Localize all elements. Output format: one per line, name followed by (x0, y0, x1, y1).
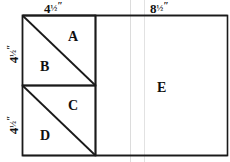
lower-square-diagonal (23, 86, 96, 156)
dimension-whole-left-lower: 4 (6, 128, 21, 135)
region-label-b: B (40, 60, 49, 74)
dimension-fraction-left-lower: ½ (8, 121, 18, 128)
dimension-fraction-left-upper: ½ (8, 50, 18, 57)
upper-square-diagonal (23, 16, 96, 86)
dimension-unit-left-lower: ″ (5, 116, 16, 122)
dimension-unit-left-upper: ″ (5, 45, 16, 51)
region-label-e: E (157, 81, 166, 95)
dimension-label-left-upper: 4½″ (6, 37, 20, 71)
dimension-label-left-lower: 4½″ (6, 108, 20, 142)
region-label-a: A (68, 30, 78, 44)
cutting-diagram: 4½″ 8½″ 4½″ 4½″ A B C D E (0, 0, 230, 162)
dimension-label-top-right: 8½″ (150, 1, 169, 15)
diagram-canvas (0, 0, 230, 162)
dimension-label-top-left: 4½″ (44, 1, 63, 15)
dimension-unit-top-right: ″ (163, 0, 169, 11)
region-label-c: C (68, 99, 78, 113)
dimension-unit-top-left: ″ (57, 0, 63, 11)
dimension-whole-left-upper: 4 (6, 57, 21, 64)
region-label-d: D (40, 129, 50, 143)
